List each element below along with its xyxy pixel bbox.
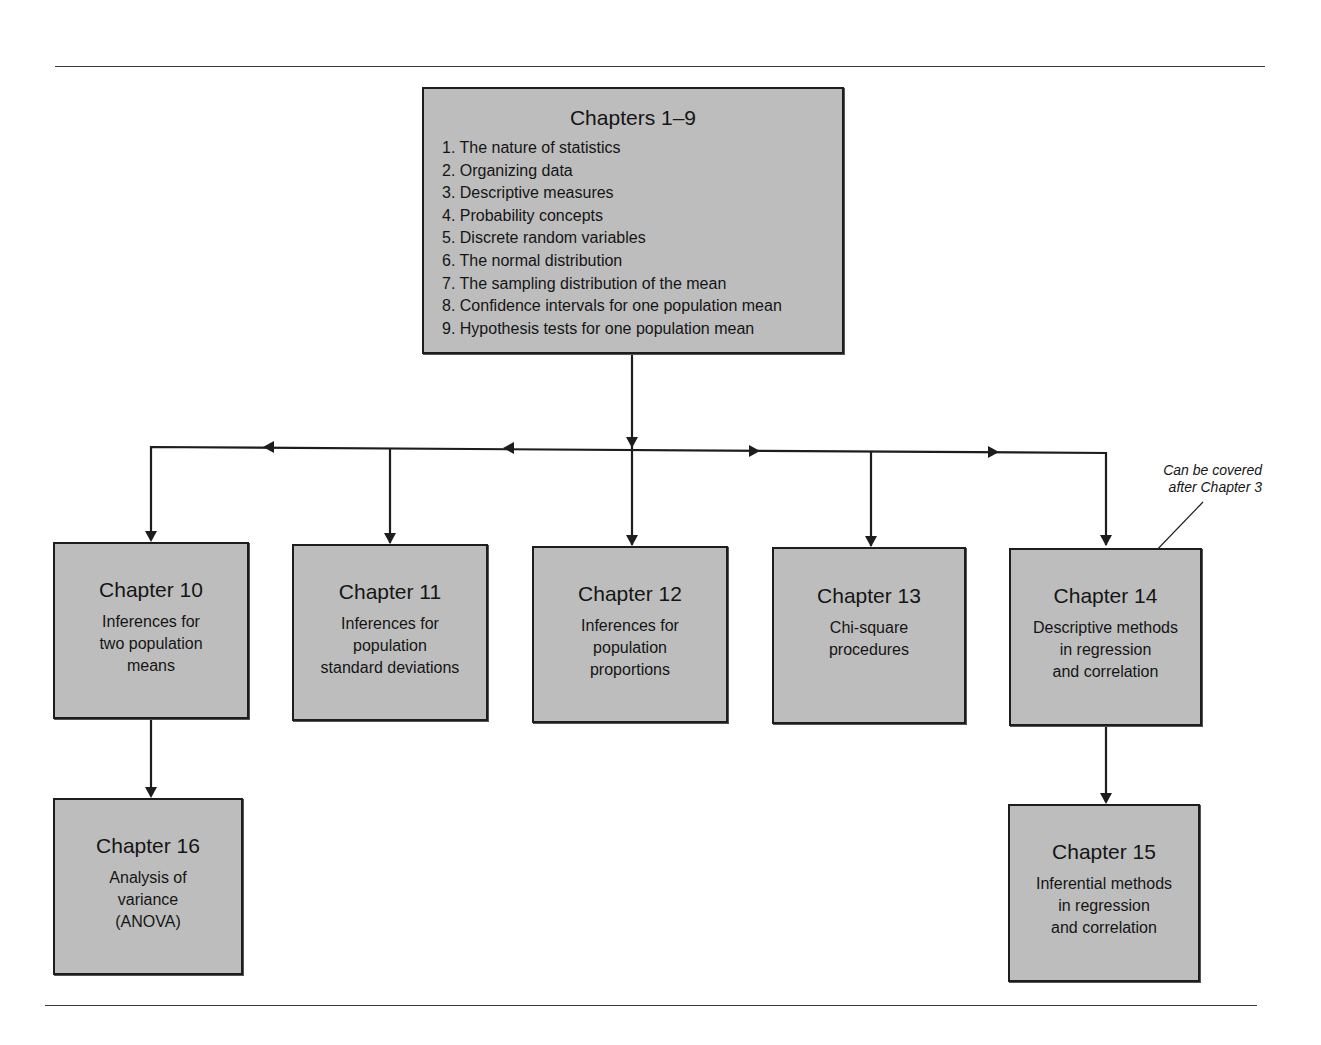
chapter-list-item: 2. Organizing data: [442, 160, 842, 183]
chapter-list-item: 3. Descriptive measures: [442, 182, 842, 205]
box-title: Chapter 11: [321, 579, 460, 605]
box-description: Inferences for two population means: [99, 611, 203, 677]
chapter-list: 1. The nature of statistics 2. Organizin…: [424, 137, 842, 340]
box-description: Inferences for population standard devia…: [321, 613, 460, 679]
box-description-line: and correlation: [1036, 917, 1172, 939]
annotation-note: Can be covered after Chapter 3: [1130, 462, 1262, 496]
arrowhead-ch14: [1100, 535, 1112, 546]
box-title: Chapter 13: [817, 583, 921, 609]
box-description-line: Descriptive methods: [1033, 617, 1178, 639]
box-description-line: Chi-square: [817, 617, 921, 639]
box-description-line: population: [578, 637, 682, 659]
box-description-line: in regression: [1036, 895, 1172, 917]
box-description: Descriptive methods in regression and co…: [1033, 617, 1178, 683]
box-title: Chapter 10: [99, 577, 203, 603]
arrowhead-trunk: [626, 437, 638, 448]
box-description-line: procedures: [817, 639, 921, 661]
chapter-list-item: 9. Hypothesis tests for one population m…: [442, 318, 842, 341]
box-description-line: and correlation: [1033, 661, 1178, 683]
branch-bus-line: [151, 447, 1106, 545]
arrowhead-ch13: [865, 536, 877, 547]
arrowhead-ch10: [145, 531, 157, 542]
arrowhead-bus-right-1: [749, 445, 760, 457]
box-description-line: in regression: [1033, 639, 1178, 661]
arrowhead-ch11: [384, 533, 396, 544]
arrowhead-bus-right-2: [988, 446, 999, 458]
chapter-list-item: 7. The sampling distribution of the mean: [442, 273, 842, 296]
box-description-line: proportions: [578, 659, 682, 681]
annotation-line: after Chapter 3: [1130, 479, 1262, 496]
box-description-line: Inferential methods: [1036, 873, 1172, 895]
arrowhead-ch12: [626, 535, 638, 546]
box-description-line: (ANOVA): [96, 911, 200, 933]
chapter-list-item: 6. The normal distribution: [442, 250, 842, 273]
box-description-line: Analysis of: [96, 867, 200, 889]
box-description: Analysis of variance (ANOVA): [96, 867, 200, 933]
box-description-line: population: [321, 635, 460, 657]
box-title: Chapter 14: [1033, 583, 1178, 609]
box-description-line: variance: [96, 889, 200, 911]
box-description-line: two population: [99, 633, 203, 655]
arrowhead-bus-left-2: [503, 442, 514, 454]
box-title: Chapter 12: [578, 581, 682, 607]
box-description: Inferences for population proportions: [578, 615, 682, 681]
chapter-list-item: 5. Discrete random variables: [442, 227, 842, 250]
box-description-line: means: [99, 655, 203, 677]
box-description-line: Inferences for: [321, 613, 460, 635]
box-description-line: Inferences for: [578, 615, 682, 637]
chapter-list-item: 1. The nature of statistics: [442, 137, 842, 160]
arrowhead-ch16: [145, 787, 157, 798]
chapter-list-item: 4. Probability concepts: [442, 205, 842, 228]
arrowhead-bus-left-1: [263, 441, 274, 453]
box-chapter-10: Chapter 10 Inferences for two population…: [53, 542, 249, 719]
annotation-line: Can be covered: [1130, 462, 1262, 479]
box-description: Chi-square procedures: [817, 617, 921, 661]
arrowhead-ch15: [1100, 793, 1112, 804]
box-chapter-14: Chapter 14 Descriptive methods in regres…: [1009, 548, 1202, 726]
box-chapter-16: Chapter 16 Analysis of variance (ANOVA): [53, 798, 243, 975]
box-chapters-1-9: Chapters 1–9 1. The nature of statistics…: [422, 87, 844, 354]
box-description: Inferential methods in regression and co…: [1036, 873, 1172, 939]
box-description-line: standard deviations: [321, 657, 460, 679]
box-description-line: Inferences for: [99, 611, 203, 633]
box-title: Chapters 1–9: [424, 105, 842, 131]
box-chapter-12: Chapter 12 Inferences for population pro…: [532, 546, 728, 723]
box-chapter-15: Chapter 15 Inferential methods in regres…: [1008, 804, 1200, 982]
box-title: Chapter 15: [1036, 839, 1172, 865]
box-chapter-11: Chapter 11 Inferences for population sta…: [292, 544, 488, 721]
chapter-list-item: 8. Confidence intervals for one populati…: [442, 295, 842, 318]
box-title: Chapter 16: [96, 833, 200, 859]
box-chapter-13: Chapter 13 Chi-square procedures: [772, 547, 966, 724]
